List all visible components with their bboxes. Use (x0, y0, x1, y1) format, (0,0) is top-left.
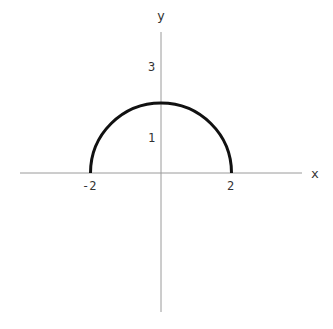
y-tick-label-1: 1 (148, 131, 155, 145)
y-axis-label: y (157, 8, 165, 23)
y-tick-label-3: 3 (148, 60, 155, 74)
x-axis-label: x (311, 166, 319, 181)
x-tick-label-2: 2 (227, 179, 234, 193)
plot-canvas: y x -2 2 1 3 (0, 0, 333, 329)
x-tick-label-neg2: -2 (82, 179, 96, 193)
